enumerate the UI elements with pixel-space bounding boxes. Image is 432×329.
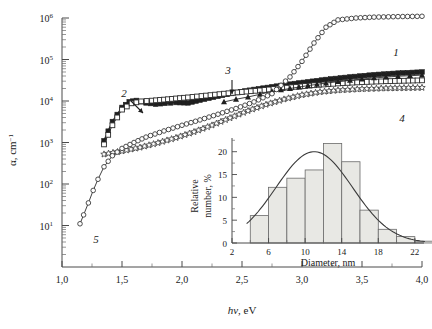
curve-label-5: 5 — [93, 233, 99, 245]
inset-y-tick-label: 10 — [218, 193, 228, 203]
inset-y-tick-label: 20 — [218, 147, 228, 157]
y-tick-label: 102 — [40, 178, 54, 190]
figure-root: 101102103104105106 1,01,52,02,53,03,54,0… — [0, 0, 432, 329]
inset-x-tick-label: 6 — [266, 247, 271, 257]
inset-y-tick-label: 15 — [218, 170, 228, 180]
histogram-bar — [269, 187, 287, 243]
y-axis-ticks — [62, 18, 69, 255]
histogram-bar — [360, 210, 378, 243]
histogram-bar — [305, 170, 323, 243]
curve-label-4: 4 — [399, 112, 405, 124]
inset-x-tick-label: 2 — [230, 247, 235, 257]
x-axis-tick-labels: 1,01,52,02,53,03,54,0 — [56, 274, 429, 285]
inset-x-tick-label: 18 — [374, 247, 384, 257]
inset-x-tick-label: 14 — [337, 247, 347, 257]
inset-x-axis-title: Diameter, nm — [301, 257, 356, 268]
y-tick-label: 105 — [40, 54, 54, 66]
histogram-bar — [342, 162, 360, 243]
absorption-spectrum-chart: 101102103104105106 1,01,52,02,53,03,54,0… — [0, 0, 432, 329]
inset-x-tick-label: 10 — [301, 247, 311, 257]
y-tick-label: 106 — [40, 12, 54, 24]
inset-y-tick-label: 5 — [223, 216, 228, 226]
x-axis-title: hν, eV — [228, 304, 257, 316]
y-axis-tick-labels: 101102103104105106 — [40, 12, 54, 232]
y-tick-label: 101 — [40, 220, 54, 232]
curve-label-3: 3 — [224, 64, 231, 76]
histogram-bar — [378, 229, 396, 243]
x-tick-label: 3,0 — [296, 274, 309, 285]
curve-label-2: 2 — [121, 87, 127, 99]
x-tick-label: 3,5 — [356, 274, 369, 285]
inset-y-axis-title-line2: number, % — [202, 174, 213, 217]
histogram-bar — [287, 178, 305, 243]
curve-label-1: 1 — [393, 46, 399, 58]
histogram-bar — [250, 216, 268, 243]
x-tick-label: 4,0 — [416, 274, 429, 285]
inset-histogram: 05101520 2610141822 Relative number, % D… — [186, 128, 432, 268]
histogram-bar — [323, 143, 341, 243]
inset-x-tick-label: 22 — [410, 247, 419, 257]
x-tick-label: 1,5 — [116, 274, 129, 285]
x-tick-label: 1,0 — [56, 274, 69, 285]
y-axis-title: α, cm−1 — [6, 133, 18, 166]
inset-y-axis-title-line1: Relative — [189, 179, 200, 213]
y-tick-label: 104 — [40, 95, 54, 107]
x-tick-label: 2,5 — [236, 274, 249, 285]
y-tick-label: 103 — [40, 137, 54, 149]
x-tick-label: 2,0 — [176, 274, 189, 285]
inset-y-tick-label: 0 — [223, 239, 228, 249]
